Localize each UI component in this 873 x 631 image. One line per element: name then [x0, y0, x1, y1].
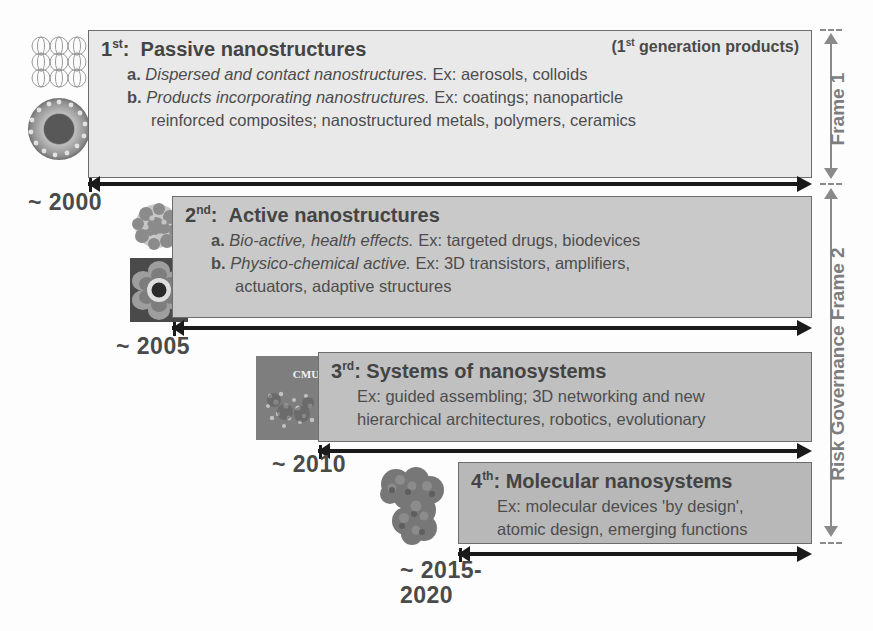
generation-1-note: (1st generation products) — [611, 37, 799, 57]
nanotechnology-generations-diagram: CMU (1s — [0, 0, 873, 631]
generation-2-ordinal: 2nd: — [185, 204, 217, 226]
generation-1-line-b: b. Products incorporating nanostructures… — [101, 86, 799, 109]
generation-2-title: Active nanostructures — [229, 204, 440, 226]
arrow-head — [797, 546, 812, 562]
arrow-shaft — [458, 552, 799, 556]
molecular-cluster-icon — [372, 466, 460, 548]
generation-1-heading-row: (1st generation products) 1st: Passive n… — [101, 37, 799, 63]
generation-1-line-b-cont: reinforced composites; nanostructured me… — [101, 109, 799, 132]
cmu-watermark-label: CMU — [293, 368, 319, 380]
timeline-arrow-generation-1 — [88, 176, 812, 192]
generation-2-box: 2nd: Active nanostructures a. Bio-active… — [172, 196, 812, 318]
generation-1-title: Passive nanostructures — [141, 38, 367, 60]
year-label-2000: ~ 2000 — [28, 190, 102, 215]
core-shell-nanoparticle-icon — [26, 96, 92, 162]
crystal-lattice-spheres-icon — [28, 34, 90, 90]
timeline-arrow-generation-2 — [172, 320, 812, 336]
arrow-shaft — [88, 182, 799, 186]
generation-4-box: 4th: Molecular nanosystems Ex: molecular… — [458, 462, 812, 544]
generation-1-ordinal: 1st: — [101, 38, 129, 60]
arrow-head — [797, 176, 812, 192]
generation-1-box: (1st generation products) 1st: Passive n… — [88, 30, 812, 178]
frame2-label: Risk Governance Frame 2 — [827, 244, 849, 484]
generation-2-line-a: a. Bio-active, health effects. Ex: targe… — [185, 229, 799, 252]
generation-3-line-1: Ex: guided assembling; 3D networking and… — [331, 385, 799, 408]
generation-3-ordinal: 3rd: — [331, 360, 361, 382]
generation-4-line-2: atomic design, emerging functions — [471, 518, 799, 541]
generation-3-title: Systems of nanosystems — [366, 360, 606, 382]
generation-3-box: 3rd: Systems of nanosystems Ex: guided a… — [318, 352, 812, 442]
generation-4-ordinal: 4th: — [471, 470, 500, 492]
generation-2-line-b: b. Physico-chemical active. Ex: 3D trans… — [185, 252, 799, 275]
cmu-micrograph-icon: CMU — [256, 356, 326, 440]
arrow-head — [797, 320, 812, 336]
arrow-shaft — [172, 326, 799, 330]
generation-2-heading-row: 2nd: Active nanostructures — [185, 203, 799, 229]
risk-governance-frames-axis: Frame 1 Risk Governance Frame 2 — [818, 28, 873, 558]
year-label-2005: ~ 2005 — [116, 334, 190, 359]
timeline-arrow-generation-3 — [318, 443, 812, 459]
generation-3-heading-row: 3rd: Systems of nanosystems — [331, 359, 799, 385]
generation-4-line-1: Ex: molecular devices 'by design', — [471, 495, 799, 518]
arrow-head — [797, 443, 812, 459]
generation-2-line-b-cont: actuators, adaptive structures — [185, 275, 799, 298]
timeline-arrow-generation-4 — [458, 546, 812, 562]
frame2-down-arrowhead — [824, 526, 838, 537]
generation-1-line-a: a. Dispersed and contact nanostructures.… — [101, 63, 799, 86]
generation-3-line-2: hierarchical architectures, robotics, ev… — [331, 408, 799, 431]
year-label-2015-2020: ~ 2015- 2020 — [400, 558, 482, 609]
arrow-shaft — [318, 449, 799, 453]
year-label-2010: ~ 2010 — [272, 452, 346, 477]
frame2-bottom-dash — [820, 542, 842, 544]
generation-4-title: Molecular nanosystems — [506, 470, 733, 492]
generation-4-heading-row: 4th: Molecular nanosystems — [471, 469, 799, 495]
